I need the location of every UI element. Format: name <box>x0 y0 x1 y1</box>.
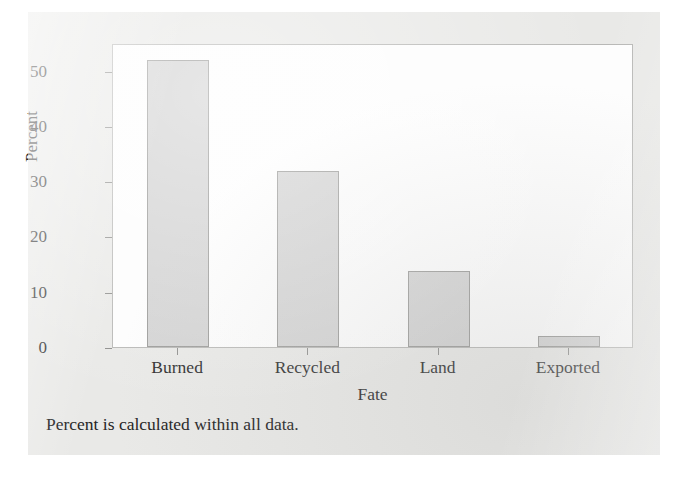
x-axis-tick <box>568 348 569 355</box>
y-axis-tick-label: 0 <box>0 339 47 356</box>
plot-frame <box>112 44 633 348</box>
bar-chart-figure: Percent 01020304050 BurnedRecycledLandEx… <box>28 12 660 455</box>
x-axis-tick-label: Exported <box>536 357 600 378</box>
x-axis-tick <box>438 348 439 355</box>
y-axis-tick <box>105 348 112 349</box>
y-axis-tick <box>105 293 112 294</box>
y-axis-tick-label: 10 <box>0 284 47 301</box>
bar-burned <box>147 60 209 347</box>
y-axis-tick-label: 30 <box>0 173 47 190</box>
bar-land <box>408 271 470 347</box>
plot-area <box>113 45 632 347</box>
x-axis-title: Fate <box>112 384 633 405</box>
x-axis-tick-label: Recycled <box>275 357 340 378</box>
x-axis-tick-label: Burned <box>151 357 203 378</box>
y-axis-tick <box>105 237 112 238</box>
figure-caption: Percent is calculated within all data. <box>46 414 299 435</box>
y-axis-tick <box>105 127 112 128</box>
x-axis-tick-label: Land <box>420 357 456 378</box>
y-axis-tick-label: 40 <box>0 118 47 135</box>
y-axis-tick-label: 50 <box>0 63 47 80</box>
x-axis-tick <box>307 348 308 355</box>
x-axis-tick <box>177 348 178 355</box>
y-axis-tick-label: 20 <box>0 228 47 245</box>
y-axis-tick <box>105 72 112 73</box>
bar-exported <box>538 336 600 347</box>
y-axis-tick <box>105 182 112 183</box>
bar-recycled <box>277 171 339 347</box>
scanned-page: Percent 01020304050 BurnedRecycledLandEx… <box>28 12 660 455</box>
